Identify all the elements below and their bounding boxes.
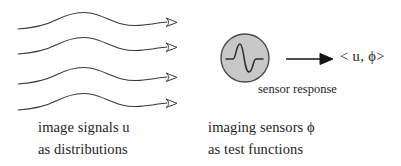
wave-path [18, 93, 167, 110]
signal-wave-4 [18, 93, 177, 110]
hollow-arrowhead-icon [166, 99, 177, 108]
sensor-disc [221, 34, 269, 82]
hollow-arrowhead-icon [166, 73, 177, 82]
signal-wave-3 [18, 67, 177, 84]
signal-wave-2 [18, 37, 177, 54]
figure-canvas: < u, ϕ> sensor response image signals u … [0, 0, 401, 166]
response-arrow [286, 54, 333, 65]
image-signals-caption-line2: as distributions [38, 138, 130, 160]
wave-path [18, 67, 167, 84]
wave-path [18, 12, 167, 29]
wave-path [18, 37, 167, 54]
sensor-icon [221, 34, 269, 82]
image-signals-caption-line1: image signals u [38, 116, 130, 138]
sensor-response-label: sensor response [258, 82, 337, 97]
signal-waves-group [18, 12, 177, 110]
imaging-sensors-caption-line2: as test functions [208, 138, 315, 160]
image-signals-caption: image signals u as distributions [38, 116, 130, 160]
imaging-sensors-caption-line1: imaging sensors ϕ [208, 116, 315, 138]
hollow-arrowhead-icon [166, 18, 177, 27]
imaging-sensors-caption: imaging sensors ϕ as test functions [208, 116, 315, 160]
hollow-arrowhead-icon [166, 43, 177, 52]
filled-arrowhead-icon [320, 54, 333, 65]
pairing-formula: < u, ϕ> [340, 48, 385, 65]
signal-wave-1 [18, 12, 177, 29]
